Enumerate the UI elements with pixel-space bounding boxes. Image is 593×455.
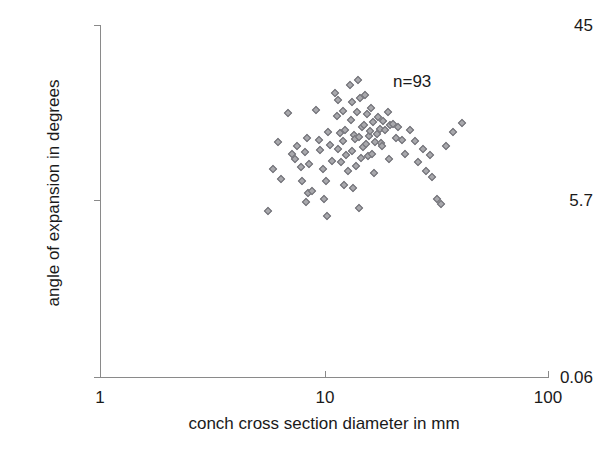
data-point [323, 211, 331, 219]
data-point [300, 148, 308, 156]
data-point [410, 137, 418, 145]
data-point [303, 133, 311, 141]
x-tick-label-left: 1 [70, 389, 130, 406]
data-point [349, 184, 357, 192]
data-point [334, 96, 342, 104]
data-point [302, 198, 310, 206]
data-point [426, 151, 434, 159]
data-point [352, 161, 360, 169]
x-tick-mark-right [548, 371, 549, 378]
data-point [406, 126, 414, 134]
data-point [458, 119, 466, 127]
data-point [325, 141, 333, 149]
x-axis-title: conch cross section diameter in mm [100, 414, 548, 434]
data-point [449, 128, 457, 136]
data-point [284, 109, 292, 117]
x-tick-label-right: 100 [518, 389, 578, 406]
data-point [316, 146, 324, 154]
data-point [322, 177, 330, 185]
data-point [419, 144, 427, 152]
data-point [305, 160, 313, 168]
data-point [344, 167, 352, 175]
data-point [339, 106, 347, 114]
data-point [315, 135, 323, 143]
x-axis-line [100, 377, 548, 378]
data-point [347, 115, 355, 123]
data-point [378, 142, 386, 150]
data-point [437, 200, 445, 208]
data-point [298, 177, 306, 185]
data-point [428, 172, 436, 180]
data-point [273, 138, 281, 146]
data-point [394, 123, 402, 131]
data-point [370, 168, 378, 176]
data-point [385, 155, 393, 163]
scatter-chart-figure: 45 5.7 0.06 1 10 100 angle of expansion … [0, 0, 593, 455]
data-point [414, 158, 422, 166]
data-point [328, 157, 336, 165]
data-point [355, 133, 363, 141]
plot-area [100, 25, 548, 377]
y-axis-title: angle of expansion in degrees [44, 43, 64, 343]
data-point [442, 142, 450, 150]
data-point [312, 106, 320, 114]
data-point [268, 165, 276, 173]
data-point [421, 167, 429, 175]
data-point [340, 181, 348, 189]
data-point [398, 135, 406, 143]
data-point [354, 76, 362, 84]
data-point [324, 128, 332, 136]
data-point [348, 98, 356, 106]
data-point [276, 174, 284, 182]
x-tick-label-mid: 10 [295, 389, 355, 406]
data-point [333, 144, 341, 152]
data-point [346, 81, 354, 89]
data-point [338, 137, 346, 145]
data-point [293, 142, 301, 150]
data-point [320, 195, 328, 203]
data-point [337, 158, 345, 166]
data-point [319, 165, 327, 173]
data-point [355, 203, 363, 211]
data-point [401, 149, 409, 157]
data-point [384, 108, 392, 116]
data-point [353, 108, 361, 116]
data-point [263, 207, 271, 215]
